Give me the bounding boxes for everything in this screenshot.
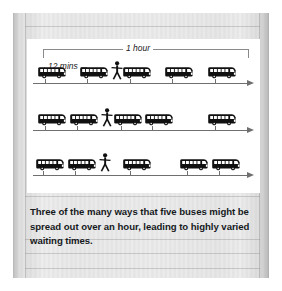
axis-tick [75, 171, 76, 176]
axis-tick [219, 171, 220, 176]
axis-tick [121, 126, 122, 131]
axis-arrow-icon [247, 127, 254, 133]
one-hour-label: 1 hour [123, 44, 153, 53]
axis-tick [215, 126, 216, 131]
bus-icon [113, 113, 143, 126]
bus-icon [207, 113, 237, 126]
axis-tick [43, 171, 44, 176]
page-rule-line [25, 26, 260, 27]
bus-icon [122, 158, 152, 171]
person-waiting-icon [99, 153, 111, 172]
bus-icon [207, 66, 237, 79]
person-waiting-icon [111, 61, 123, 80]
person-waiting-icon [101, 108, 113, 127]
axis-tick [45, 79, 46, 84]
figure-caption: Three of the many ways that five buses m… [30, 205, 252, 249]
axis-tick [45, 126, 46, 131]
axis-tick [87, 79, 88, 84]
bus-icon [144, 113, 174, 126]
bus-icon [37, 113, 67, 126]
time-axis-line [33, 83, 249, 84]
time-axis-line [33, 175, 249, 176]
bus-icon [211, 158, 241, 171]
bus-icon [79, 66, 109, 79]
bus-icon [122, 66, 152, 79]
page-rule-line [25, 268, 260, 269]
page-rule-line [25, 253, 260, 254]
axis-tick [215, 79, 216, 84]
page-margin-line [25, 13, 26, 278]
bus-icon [69, 113, 99, 126]
figure-panel: 1 hour 12 mins [27, 39, 260, 193]
axis-tick [187, 171, 188, 176]
axis-arrow-icon [247, 172, 254, 178]
axis-tick [130, 79, 131, 84]
axis-tick [172, 79, 173, 84]
scanned-book-page: 1 hour 12 mins Three of the many ways th… [0, 0, 282, 291]
axis-tick [77, 126, 78, 131]
axis-tick [130, 171, 131, 176]
book-spine-shadow [13, 13, 25, 278]
axis-tick [152, 126, 153, 131]
time-axis-line [33, 130, 249, 131]
bus-icon [67, 158, 97, 171]
bus-icon [35, 158, 65, 171]
bus-icon [164, 66, 194, 79]
bus-icon [179, 158, 209, 171]
bus-icon [37, 66, 67, 79]
axis-arrow-icon [247, 80, 254, 86]
